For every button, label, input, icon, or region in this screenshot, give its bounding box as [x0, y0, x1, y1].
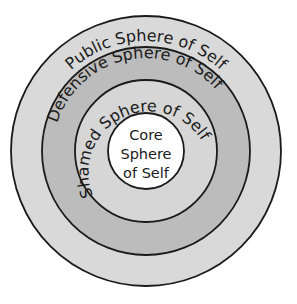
core-sphere-label-line-3: of Self: [123, 165, 170, 181]
sphere-of-self-diagram: Public Sphere of Self Defensive Sphere o…: [0, 0, 297, 304]
core-sphere-label-line-1: Core: [129, 127, 163, 143]
core-sphere-label-line-2: Sphere: [120, 146, 171, 162]
